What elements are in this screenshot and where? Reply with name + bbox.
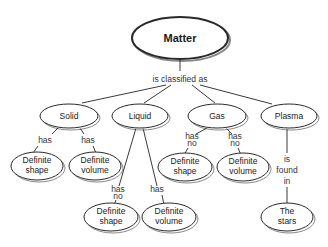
node-solid-label: Solid [60,111,79,121]
link-liquid-has-no-2: no [113,191,123,201]
edge-liquid-has [143,128,157,186]
node-solid-definite-shape: Definite shape [11,152,65,182]
node-liquid-label: Liquid [129,111,152,121]
leaf-label-line1: Definite [229,156,258,166]
leaf-label-line2: stars [278,216,296,226]
leaf-label-line2: volume [155,216,183,226]
leaf-label-line1: Definite [23,155,52,165]
link-solid-has-2: has [81,135,95,145]
node-gas-definite-shape: Definite shape [158,153,214,183]
edge-liquid-hasno [119,128,136,186]
leaf-label-line2: volume [229,166,257,176]
leaf-label-line1: Definite [155,206,184,216]
leaf-label-line1: Definite [81,155,110,165]
node-plasma-label: Plasma [275,111,304,121]
edge-to-liquid [144,85,171,103]
leaf-label-line2: volume [81,165,109,175]
concept-map: Matter is classified as Solid Liquid Gas… [0,0,328,247]
link-gas-has-no-2b: no [230,138,240,148]
node-plasma: Plasma [261,104,319,130]
node-liquid-definite-volume: Definite volume [142,203,198,233]
link-is-classified-as: is classified as [153,74,208,84]
leaf-label-line2: shape [99,216,122,226]
node-matter: Matter [132,17,230,61]
node-gas-definite-volume: Definite volume [217,153,271,183]
node-matter-label: Matter [163,32,197,44]
link-gas-has-no-1b: no [187,138,197,148]
edge-to-solid [82,85,166,103]
node-gas-label: Gas [209,111,225,121]
leaf-label-line1: Definite [171,156,200,166]
leaf-label-line2: shape [25,165,48,175]
node-solid-definite-volume: Definite volume [69,152,123,182]
edge-to-plasma [200,85,272,104]
node-liquid: Liquid [112,104,170,130]
link-plasma-found: found [276,165,298,175]
node-liquid-definite-shape: Definite shape [84,203,140,233]
node-plasma-the-stars: The stars [261,203,315,233]
leaf-label-line1: The [280,206,295,216]
leaf-label-line1: Definite [97,206,126,216]
node-gas: Gas [188,104,248,130]
link-liquid-has: has [150,184,164,194]
link-solid-has-1: has [38,135,52,145]
link-plasma-is: is [284,154,290,164]
link-plasma-in: in [284,176,291,186]
node-solid: Solid [40,104,100,130]
leaf-label-line2: shape [173,166,196,176]
